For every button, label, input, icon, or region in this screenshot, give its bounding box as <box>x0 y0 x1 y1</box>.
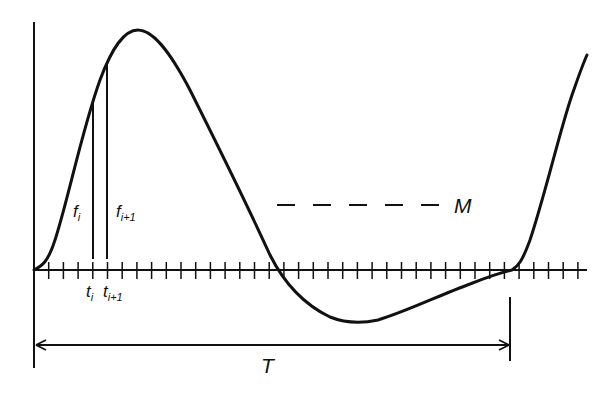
label-mean: M <box>454 194 472 217</box>
label-f-i: fi <box>73 202 81 223</box>
label-t-i: ti <box>86 282 94 303</box>
label-period: T <box>261 354 276 377</box>
label-t-i-plus-1: ti+1 <box>103 282 123 303</box>
waveform-diagram: fi fi+1 ti ti+1 M T <box>0 0 612 393</box>
label-f-i-plus-1: fi+1 <box>116 202 136 223</box>
